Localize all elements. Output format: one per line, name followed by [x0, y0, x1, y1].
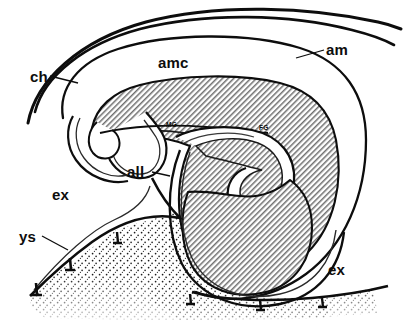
label-amc: amc	[158, 55, 189, 70]
leader-line-ys	[42, 236, 68, 250]
label-ys: ys	[19, 229, 36, 244]
label-ex-right: ex	[328, 262, 345, 277]
label-fg: FG	[259, 125, 269, 132]
label-mg: MG	[166, 122, 177, 129]
embryo-membrane-diagram: ch am amc all ex ex ys MG FG	[0, 0, 403, 323]
label-ch: ch	[30, 69, 48, 84]
label-ex-left: ex	[52, 187, 69, 202]
label-am: am	[326, 42, 348, 57]
ventral-body-hatched-region	[182, 180, 312, 295]
label-all: all	[127, 164, 144, 179]
